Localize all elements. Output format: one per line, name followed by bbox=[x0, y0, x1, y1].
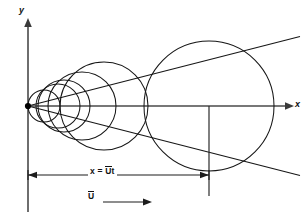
x-axis-arrowhead bbox=[285, 102, 294, 110]
dimension-arrow-right bbox=[200, 172, 209, 178]
velocity-arrow-head bbox=[143, 199, 152, 206]
velocity-label-u-bar: U bbox=[88, 191, 94, 201]
distance-label-prefix: x = bbox=[90, 166, 105, 176]
velocity-arrow-group bbox=[103, 199, 152, 206]
dimension-arrow-left bbox=[28, 172, 37, 178]
distance-label: x = Ut bbox=[88, 166, 117, 176]
y-axis-arrowhead bbox=[24, 18, 32, 27]
x-axis-label: x bbox=[295, 100, 300, 109]
upper-envelope-line bbox=[28, 37, 300, 107]
dimension-line-group bbox=[28, 170, 209, 180]
distance-label-suffix: t bbox=[112, 166, 115, 176]
wavefront-diagram-svg bbox=[0, 0, 308, 223]
y-axis-label: y bbox=[19, 6, 24, 15]
velocity-label: U bbox=[86, 191, 96, 201]
lower-envelope-line bbox=[28, 106, 300, 176]
source-origin-dot bbox=[25, 103, 31, 109]
figure-container: y x x = Ut U bbox=[0, 0, 308, 223]
